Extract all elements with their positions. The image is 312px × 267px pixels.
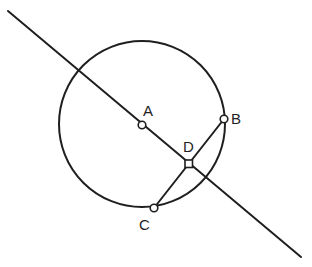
point-d-marker — [185, 160, 193, 168]
point-c-marker — [150, 204, 158, 212]
point-a-marker — [138, 121, 146, 129]
point-b-marker — [220, 115, 228, 123]
line-through-a-and-d — [8, 11, 301, 257]
label-b: B — [231, 110, 241, 127]
label-a: A — [143, 102, 153, 119]
geometry-diagram: A B C D — [0, 0, 312, 267]
label-c: C — [139, 216, 150, 233]
label-d: D — [183, 138, 194, 155]
